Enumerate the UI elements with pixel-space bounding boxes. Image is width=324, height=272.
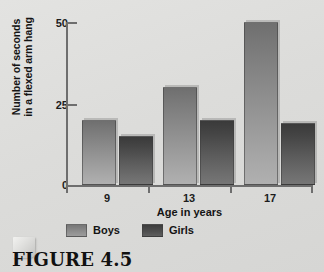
x-tick-mark-end (311, 187, 313, 193)
x-tick-label-13: 13 (169, 192, 209, 204)
x-axis-line (66, 185, 313, 187)
bar-fill (163, 87, 197, 185)
y-tick-label-25: 25 (42, 100, 68, 110)
legend-label-boys: Boys (93, 224, 120, 236)
bar-girls-13 (200, 120, 234, 185)
figure-container: Number of seconds in a flexed arm hang 5… (0, 0, 324, 272)
bar-fill (281, 123, 315, 185)
y-tick-label-50: 50 (42, 18, 68, 28)
legend-swatch-boys-icon (66, 224, 87, 237)
bar-boys-9 (82, 120, 116, 185)
bar-girls-9 (119, 136, 153, 185)
bar-fill (244, 22, 278, 185)
bar-girls-17 (281, 123, 315, 185)
legend-entry-girls: Girls (142, 224, 194, 237)
figure-caption: FIGURE 4.5 (12, 249, 133, 270)
bar-fill (200, 120, 234, 185)
y-axis-title-line2: in a flexed arm hang (22, 17, 35, 117)
legend-swatch-girls-icon (142, 224, 163, 237)
bar-fill (119, 136, 153, 185)
y-tick-label-0: 0 (42, 180, 68, 190)
x-tick-label-17: 17 (250, 192, 290, 204)
y-tick-0: 0 (36, 180, 68, 190)
bar-fill (82, 120, 116, 185)
y-tick-25: 25 (36, 100, 68, 110)
x-tick-mark-2 (230, 187, 232, 193)
chart-plot-area: Number of seconds in a flexed arm hang 5… (0, 0, 324, 200)
bar-boys-13 (163, 87, 197, 185)
y-tick-50: 50 (36, 18, 68, 28)
chart-legend: Boys Girls (66, 222, 216, 238)
x-tick-mark-1 (148, 187, 150, 193)
y-axis-title-line1: Number of seconds (10, 19, 23, 115)
y-axis-title: Number of seconds in a flexed arm hang (7, 0, 37, 135)
bar-boys-17 (244, 22, 278, 185)
figure-caption-area: FIGURE 4.5 (0, 240, 324, 272)
x-tick-label-9: 9 (87, 192, 127, 204)
x-axis-title: Age in years (66, 206, 313, 218)
legend-label-girls: Girls (169, 224, 194, 236)
x-tick-mark-start (66, 187, 68, 193)
legend-entry-boys: Boys (66, 224, 120, 237)
bars-layer (66, 0, 313, 185)
